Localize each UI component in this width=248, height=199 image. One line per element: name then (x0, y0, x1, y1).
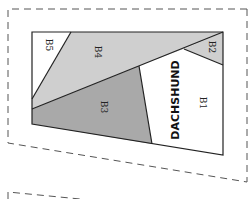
next-seam-allowance-outline (8, 192, 80, 199)
label-b2: B2 (207, 41, 217, 53)
label-b4: B4 (93, 46, 103, 59)
label-b1: B1 (198, 97, 208, 109)
label-b5: B5 (44, 39, 54, 52)
quilt-pattern-diagram: B5 B4 B3 B2 B1 DACHSHUND (0, 0, 248, 199)
label-b3: B3 (99, 101, 109, 114)
block-title: DACHSHUND (169, 60, 182, 139)
